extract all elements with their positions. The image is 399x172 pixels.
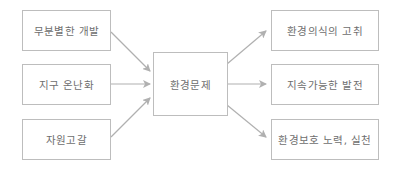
- outcome-box-1: 환경의식의 고취: [271, 10, 379, 51]
- cause-box-3: 자원고갈: [22, 119, 111, 160]
- cause-box-1: 무분별한 개발: [22, 10, 111, 51]
- outcome-label: 환경보호 노력, 실천: [278, 132, 371, 147]
- cause-label: 지구 온난화: [39, 77, 94, 92]
- cause-box-2: 지구 온난화: [22, 64, 111, 105]
- arrow-outcome-3: [227, 105, 266, 137]
- outcome-label: 지속가능한 발전: [287, 77, 363, 92]
- cause-label: 자원고갈: [46, 132, 87, 147]
- center-label: 환경문제: [170, 77, 211, 92]
- arrow-outcome-1: [227, 31, 266, 64]
- arrow-cause-3: [111, 98, 150, 137]
- cause-label: 무분별한 개발: [34, 23, 99, 38]
- outcome-box-3: 환경보호 노력, 실천: [271, 119, 379, 160]
- outcome-label: 환경의식의 고취: [287, 23, 363, 38]
- center-box: 환경문제: [153, 52, 228, 116]
- outcome-box-2: 지속가능한 발전: [271, 64, 379, 105]
- arrow-cause-1: [111, 32, 150, 71]
